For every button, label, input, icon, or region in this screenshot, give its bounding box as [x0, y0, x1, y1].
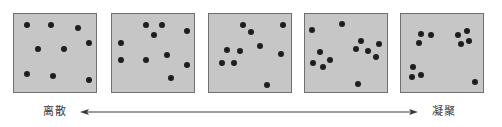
dot-marker [353, 46, 359, 52]
dot-marker [418, 31, 424, 37]
dot-marker [248, 29, 254, 35]
dot-marker [61, 46, 67, 52]
dot-marker [118, 40, 124, 46]
panel-1 [13, 13, 97, 93]
label-dispersed: 离散 [43, 105, 67, 119]
dot-marker [410, 64, 416, 70]
arrow-head-right-icon [409, 109, 418, 115]
dot-marker [455, 32, 461, 38]
dot-marker [376, 41, 382, 47]
dot-marker [184, 62, 190, 68]
dot-marker [257, 43, 263, 49]
dot-marker [151, 32, 157, 38]
dot-marker [428, 32, 434, 38]
dot-marker [48, 22, 54, 28]
panel-4 [304, 13, 388, 93]
dot-marker [86, 77, 92, 83]
dot-marker [164, 52, 170, 58]
dot-marker [358, 38, 364, 44]
dot-marker [320, 64, 326, 70]
dot-marker [365, 48, 371, 54]
label-clustered: 凝聚 [432, 105, 456, 119]
dot-marker [237, 48, 243, 54]
dot-marker [278, 51, 284, 57]
dot-marker [24, 22, 30, 28]
dot-marker [458, 41, 464, 47]
dot-marker [280, 22, 286, 28]
dot-marker [118, 57, 124, 63]
dot-marker [224, 47, 230, 53]
dot-marker [35, 46, 41, 52]
dot-marker [168, 75, 174, 81]
panel-3 [208, 13, 292, 93]
dot-marker [409, 74, 415, 80]
dot-marker [309, 27, 315, 33]
panel-5 [400, 13, 484, 93]
dot-marker [50, 73, 56, 79]
dot-marker [373, 54, 379, 60]
dot-marker [416, 40, 422, 46]
dot-marker [418, 72, 424, 78]
dot-marker [466, 38, 472, 44]
dot-marker [159, 22, 165, 28]
dot-marker [24, 71, 30, 77]
dot-marker [317, 49, 323, 55]
panel-2 [111, 13, 195, 93]
dot-marker [339, 21, 345, 27]
dot-marker [464, 28, 470, 34]
arrow-head-left-icon [80, 109, 89, 115]
dot-marker [75, 25, 81, 31]
dot-marker [472, 79, 478, 85]
dot-marker [310, 60, 316, 66]
dot-marker [240, 22, 246, 28]
dot-marker [231, 60, 237, 66]
dot-marker [143, 57, 149, 63]
dot-marker [86, 40, 92, 46]
dot-marker [327, 57, 333, 63]
dot-marker [184, 28, 190, 34]
dot-marker [219, 60, 225, 66]
dot-marker [355, 81, 361, 87]
dot-marker [143, 22, 149, 28]
dot-marker [264, 82, 270, 88]
